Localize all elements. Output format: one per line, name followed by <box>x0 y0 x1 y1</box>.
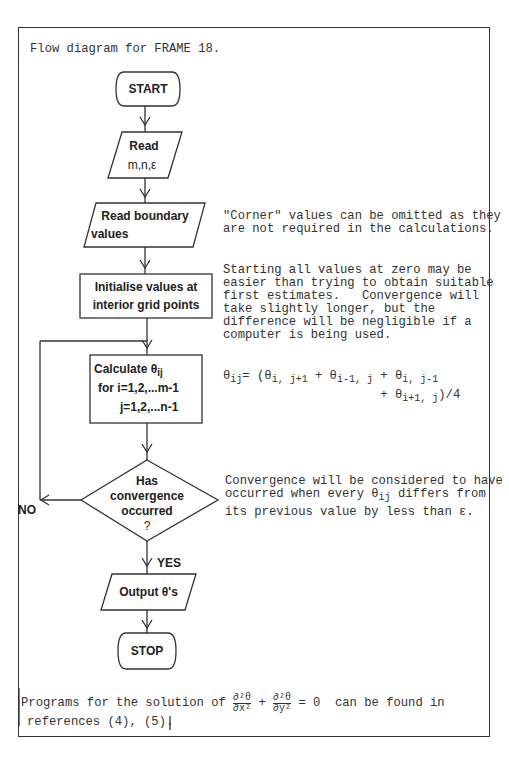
read-boundary-line2: values <box>91 227 151 242</box>
formula-theta: θ <box>264 369 271 383</box>
note-corner-2: are not required in the calculations. <box>223 223 494 236</box>
initialise-line2: interior grid points <box>80 298 212 313</box>
fraction-y: ∂²θ∂y² <box>273 693 291 714</box>
conv-text: differs from <box>391 487 486 501</box>
read-params-line1: Read <box>114 139 174 154</box>
formula-line1: θij= (θi, j+1 + θi-1, j + θi, j-1 <box>223 370 438 386</box>
note-start-6: computer is being used. <box>223 329 391 342</box>
calculate-line3: j=1,2,...n-1 <box>120 400 202 415</box>
conv-theta: θ <box>371 487 378 501</box>
start-label: START <box>116 82 180 97</box>
no-label: NO <box>18 503 48 518</box>
formula-sub: i, j+1 <box>272 374 308 385</box>
formula-plus: + <box>373 388 395 402</box>
decision-line1: Has <box>107 474 187 489</box>
calculate-subscript: ij <box>157 367 163 378</box>
formula-theta: θ <box>330 369 337 383</box>
fraction-den: ∂x² <box>233 704 251 714</box>
formula-sub: i, j-1 <box>402 374 438 385</box>
conv-sub: ij <box>379 492 391 503</box>
output-label: Output θ's <box>101 585 196 600</box>
formula-line2: + θi+1, j)/4 <box>373 389 460 405</box>
note-convergence-2: occurred when every θij differs from <box>225 488 486 504</box>
stop-label: STOP <box>118 644 176 659</box>
read-boundary-line1: Read boundary <box>90 209 200 224</box>
calculate-line2: for i=1,2,...m-1 <box>98 381 202 396</box>
formula-plus: + <box>373 369 395 383</box>
formula-sub: i-1, j <box>337 374 373 385</box>
initialise-line1: Initialise values at <box>80 280 212 295</box>
decision-line4: ? <box>97 519 197 534</box>
footer-line1: Programs for the solution of ∂²θ∂x² + ∂²… <box>21 693 445 714</box>
decision-line3: occurred <box>97 504 197 519</box>
footer-text: Programs for the solution of <box>21 697 233 710</box>
formula-sub: ij <box>230 374 242 385</box>
fraction-x: ∂²θ∂x² <box>233 693 251 714</box>
formula-plus: + <box>308 369 330 383</box>
footer-plus: + <box>251 697 273 710</box>
formula-end: )/4 <box>438 388 460 402</box>
note-convergence-3: its previous value by less than ε. <box>225 506 474 519</box>
read-params-line2: m,n,ε <box>112 158 172 173</box>
calculate-line1: Calculate θij <box>94 362 202 380</box>
footer-text: = 0 can be found in <box>291 697 445 710</box>
calculate-text: Calculate θ <box>94 362 157 376</box>
fraction-den: ∂y² <box>273 704 291 714</box>
formula-eq: = ( <box>242 369 264 383</box>
footer-line2: references (4), (5). <box>27 716 173 729</box>
decision-line2: convergence <box>97 489 197 504</box>
yes-label: YES <box>157 556 197 571</box>
formula-sub: i+1, j <box>402 393 438 404</box>
conv-text: occurred when every <box>225 487 371 501</box>
